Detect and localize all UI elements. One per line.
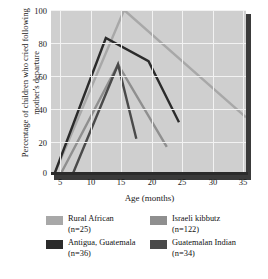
legend-swatch-rural-african (46, 216, 63, 225)
y-tick-20: 20 (21, 139, 47, 148)
legend-item-rural-african[interactable]: Rural African (n=25) (46, 214, 154, 235)
legend: Rural African (n=25) Antigua, Guatemala … (46, 214, 262, 272)
gridline-y-100 (51, 10, 246, 11)
legend-label-israeli-kibbutz: Israeli kibbutz (172, 214, 220, 224)
series-lines (51, 10, 246, 175)
x-tick-10: 10 (80, 178, 102, 187)
series-line-antigua-guatemala (54, 38, 179, 175)
x-tick-20: 20 (141, 178, 163, 187)
x-tick-15: 15 (110, 178, 132, 187)
plot-shadow-right (246, 14, 251, 180)
legend-swatch-israeli-kibbutz (150, 216, 167, 225)
gridline-x-25 (182, 10, 183, 175)
gridline-x-15 (121, 10, 122, 175)
gridline-y-40 (51, 109, 246, 110)
x-tick-5: 5 (49, 178, 71, 187)
figure: Percentage of children who cried followi… (0, 0, 268, 279)
plot-area (51, 10, 246, 175)
legend-label-antigua-guatemala: Antigua, Guatemala (68, 238, 135, 248)
gridline-x-30 (213, 10, 214, 175)
legend-label-rural-african: Rural African (68, 214, 114, 224)
y-tick-100: 100 (21, 7, 47, 16)
x-axis-ticks: 5 10 15 20 25 30 35 (40, 178, 265, 192)
y-tick-40: 40 (21, 106, 47, 115)
y-tick-60: 60 (21, 73, 47, 82)
legend-column-right: Israeli kibbutz (n=122) Guatemalan India… (150, 214, 258, 263)
legend-swatch-guatemalan-indian (150, 240, 167, 249)
y-axis-ticks: 100 80 60 40 20 0 (19, 0, 47, 185)
gridline-x-20 (152, 10, 153, 175)
gridline-x-35 (243, 10, 244, 175)
legend-n-israeli-kibbutz: (n=122) (172, 225, 258, 235)
gridline-y-80 (51, 43, 246, 44)
y-tick-80: 80 (21, 40, 47, 49)
legend-item-guatemalan-indian[interactable]: Guatemalan Indian (n=34) (150, 238, 258, 259)
x-tick-30: 30 (202, 178, 224, 187)
x-tick-35: 35 (232, 178, 254, 187)
x-tick-25: 25 (171, 178, 193, 187)
legend-label-guatemalan-indian: Guatemalan Indian (172, 238, 236, 248)
gridline-x-5 (60, 10, 61, 175)
legend-n-guatemalan-indian: (n=34) (172, 249, 258, 259)
legend-swatch-antigua-guatemala (46, 240, 63, 249)
legend-n-rural-african: (n=25) (68, 225, 154, 235)
legend-item-antigua-guatemala[interactable]: Antigua, Guatemala (n=36) (46, 238, 154, 259)
x-axis-title: Age (months) (51, 193, 248, 203)
legend-n-antigua-guatemala: (n=36) (68, 249, 154, 259)
gridline-x-10 (91, 10, 92, 175)
y-tick-0: 0 (21, 169, 47, 178)
legend-item-israeli-kibbutz[interactable]: Israeli kibbutz (n=122) (150, 214, 258, 235)
x-axis-line (51, 172, 248, 175)
gridline-y-60 (51, 76, 246, 77)
gridline-y-20 (51, 142, 246, 143)
legend-column-left: Rural African (n=25) Antigua, Guatemala … (46, 214, 154, 263)
